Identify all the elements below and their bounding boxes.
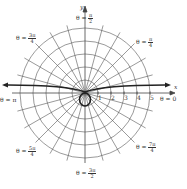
angle-label-3pi-4: θ = 3π4 bbox=[16, 33, 36, 44]
angle-label-7pi-4: θ = 7π4 bbox=[136, 142, 156, 153]
angle-label-pi: θ = π bbox=[0, 97, 16, 103]
tick-4: 4 bbox=[137, 95, 141, 101]
tick-2: 2 bbox=[111, 95, 115, 101]
tick-5: 5 bbox=[150, 95, 154, 101]
x-axis-label: x bbox=[174, 84, 177, 90]
angle-label-0: θ = 0 bbox=[160, 96, 176, 102]
polar-grid bbox=[0, 0, 187, 189]
tick-3: 3 bbox=[124, 95, 128, 101]
tick-1: 1 bbox=[98, 95, 102, 101]
angle-label-pi-4: θ = π4 bbox=[136, 37, 153, 48]
angle-label-pi-2: θ = π2 bbox=[76, 13, 93, 24]
y-axis-label: y bbox=[80, 4, 83, 10]
angle-label-3pi-2: θ = 3π2 bbox=[76, 168, 96, 179]
angle-label-5pi-4: θ = 5π4 bbox=[16, 146, 36, 157]
